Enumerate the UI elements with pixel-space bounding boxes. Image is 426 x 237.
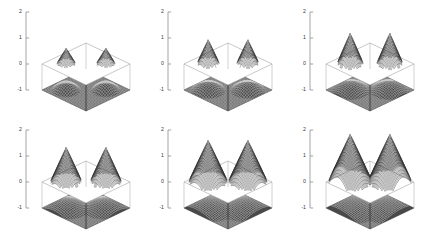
y-axis-tick-label: -1 xyxy=(17,86,22,92)
y-axis: 210-1 xyxy=(159,8,171,92)
y-axis-tick-label: 2 xyxy=(19,8,22,14)
y-axis: 210-1 xyxy=(301,8,313,92)
zero-level-plane xyxy=(326,43,414,90)
y-axis-tick-label: 0 xyxy=(19,60,22,66)
y-axis-tick-label: 2 xyxy=(161,126,164,132)
y-axis-tick-label: 2 xyxy=(161,8,164,14)
y-axis-tick-label: 1 xyxy=(303,152,306,158)
y-axis-tick-label: 2 xyxy=(19,126,22,132)
y-axis-tick-label: 2 xyxy=(303,8,306,14)
y-axis-tick-label: -1 xyxy=(17,204,22,210)
y-axis-tick-label: 1 xyxy=(19,152,22,158)
zero-level-plane xyxy=(184,43,272,90)
surface-plot-panel-6: 210-1 xyxy=(284,118,426,236)
y-axis: 210-1 xyxy=(17,126,29,210)
y-axis-tick-label: 2 xyxy=(303,126,306,132)
y-axis-tick-label: 0 xyxy=(161,60,164,66)
y-axis-tick-label: 1 xyxy=(161,34,164,40)
surface-plot-svg-6: 210-1 xyxy=(284,118,426,236)
y-axis-tick-label: -1 xyxy=(159,204,164,210)
y-axis: 210-1 xyxy=(17,8,29,92)
zero-level-plane xyxy=(42,161,130,208)
surface-plot-panel-1: 210-1 xyxy=(0,0,142,118)
y-axis-tick-label: 1 xyxy=(161,152,164,158)
surface-plot-panel-3: 210-1 xyxy=(284,0,426,118)
y-axis-tick-label: 1 xyxy=(303,34,306,40)
zero-level-plane xyxy=(42,43,130,90)
surface-plot-svg-4: 210-1 xyxy=(0,118,142,236)
y-axis-tick-label: 0 xyxy=(303,178,306,184)
y-axis-tick-label: 0 xyxy=(161,178,164,184)
y-axis-tick-label: 0 xyxy=(303,60,306,66)
y-axis: 210-1 xyxy=(159,126,171,210)
surface-plot-panel-5: 210-1 xyxy=(142,118,284,236)
surface-plot-panel-4: 210-1 xyxy=(0,118,142,236)
y-axis-tick-label: 0 xyxy=(19,178,22,184)
surface-plot-svg-5: 210-1 xyxy=(142,118,284,236)
y-axis-tick-label: -1 xyxy=(159,86,164,92)
y-axis-tick-label: 1 xyxy=(19,34,22,40)
surface-plot-svg-3: 210-1 xyxy=(284,0,426,118)
figure-canvas: 210-1210-1210-1210-1210-1210-1 xyxy=(0,0,426,237)
surface-plot-svg-2: 210-1 xyxy=(142,0,284,118)
y-axis-tick-label: -1 xyxy=(301,86,306,92)
y-axis-tick-label: -1 xyxy=(301,204,306,210)
y-axis: 210-1 xyxy=(301,126,313,210)
surface-plot-svg-1: 210-1 xyxy=(0,0,142,118)
surface-plot-panel-2: 210-1 xyxy=(142,0,284,118)
